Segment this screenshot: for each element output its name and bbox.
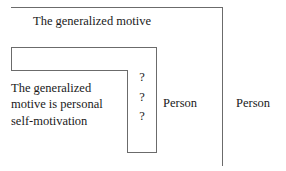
question-column-right-rule [156, 47, 157, 153]
question-mark-icon: ? [139, 110, 145, 123]
inner-bar-bottom-rule [11, 70, 128, 71]
generalized-motive-statement-label: The generalized motive is personal self-… [11, 80, 123, 129]
outer-frame-top-rule [11, 7, 223, 8]
person-inner-label: Person [163, 95, 197, 111]
question-column-bottom-rule [127, 152, 157, 153]
question-mark-icon: ? [139, 71, 145, 84]
inner-bar-left-rule [11, 47, 12, 71]
generalized-motive-label: The generalized motive [33, 13, 151, 29]
person-outer-label: Person [236, 95, 270, 111]
question-mark-stack: ? ? ? [128, 71, 156, 130]
diagram-canvas: The generalized motive The generalized m… [0, 0, 286, 171]
outer-frame-right-rule [222, 7, 223, 166]
question-mark-icon: ? [139, 91, 145, 104]
inner-bar-top-rule [11, 47, 157, 48]
